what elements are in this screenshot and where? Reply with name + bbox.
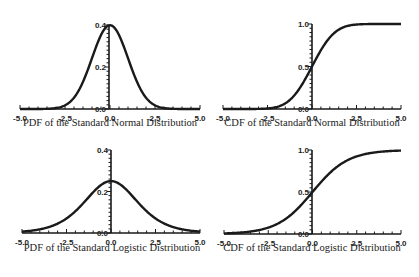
figure: -5.0-2.50.02.55.00.00.20.4-5.0-2.50.02.5…: [0, 0, 419, 277]
caption-logistic-cdf: CDF of the Standard Logistic Distributio…: [212, 242, 412, 253]
y-tick-label: 0.5: [298, 188, 310, 197]
y-tick-label: 0.0: [298, 105, 310, 114]
y-tick-label: 0.0: [298, 230, 310, 239]
chart-normal-pdf: -5.0-2.50.02.55.00.00.20.4: [13, 21, 206, 123]
caption-normal-pdf: PDF of the Standard Normal Distribution: [10, 117, 210, 128]
chart-logistic-pdf: -5.0-2.50.02.55.00.00.20.4: [15, 146, 206, 247]
y-tick-label: 0.4: [97, 146, 109, 155]
y-tick-label: 1.0: [298, 146, 310, 155]
y-tick-label: 1.0: [298, 20, 310, 29]
caption-normal-cdf: CDF of the Standard Normal Distribution: [212, 117, 412, 128]
y-tick-label: 0.2: [97, 188, 109, 197]
y-tick-label: 0.5: [298, 63, 310, 72]
caption-logistic-pdf: PDF of the Standard Logistic Distributio…: [12, 242, 212, 253]
chart-logistic-cdf: -5.0-2.50.02.55.00.00.51.0: [217, 146, 407, 248]
y-tick-label: 0.0: [97, 229, 109, 238]
y-tick-label: 0.2: [95, 63, 107, 72]
plots-canvas: -5.0-2.50.02.55.00.00.20.4-5.0-2.50.02.5…: [0, 0, 419, 277]
curve-line: [20, 25, 200, 109]
y-tick-label: 0.0: [95, 105, 107, 114]
chart-normal-cdf: -5.0-2.50.02.55.00.00.51.0: [216, 20, 407, 123]
